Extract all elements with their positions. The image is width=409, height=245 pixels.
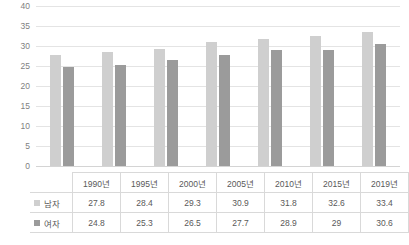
bar-female[interactable] — [219, 55, 230, 166]
y-axis-tick-label: 15 — [21, 102, 30, 111]
series-legend-label: 여자 — [44, 219, 60, 229]
bar-male[interactable] — [258, 39, 269, 166]
bar-female[interactable] — [63, 67, 74, 166]
bar-group — [140, 6, 192, 166]
y-axis-tick-label: 0 — [25, 162, 30, 171]
y-axis-tick-label: 20 — [21, 82, 30, 91]
female-swatch-icon — [34, 220, 40, 226]
table-column-header: 2000년 — [169, 173, 217, 193]
bars-layer — [36, 6, 400, 166]
series-legend-cell[interactable]: 남자 — [30, 193, 73, 213]
table-column-header: 2019년 — [361, 173, 409, 193]
bar-female[interactable] — [271, 50, 282, 166]
series-legend-label: 남자 — [44, 199, 60, 209]
y-axis-tick-label: 10 — [21, 122, 30, 131]
table-column-header: 2005년 — [217, 173, 265, 193]
gridlines-and-bars — [36, 6, 400, 166]
bar-female[interactable] — [167, 60, 178, 166]
table-data-cell: 30.9 — [217, 193, 265, 213]
male-swatch-icon — [34, 200, 40, 206]
bar-group — [192, 6, 244, 166]
table-data-cell: 29.3 — [169, 193, 217, 213]
data-table-body: 1990년1995년2000년2005년2010년2015년2019년남자27.… — [30, 173, 409, 233]
bar-male[interactable] — [154, 49, 165, 166]
bar-group — [88, 6, 140, 166]
data-table: 1990년1995년2000년2005년2010년2015년2019년남자27.… — [30, 172, 409, 233]
table-data-cell: 32.6 — [313, 193, 361, 213]
bar-male[interactable] — [362, 32, 373, 166]
series-legend-cell[interactable]: 여자 — [30, 213, 73, 233]
bar-male[interactable] — [310, 36, 321, 166]
table-data-cell: 33.4 — [361, 193, 409, 213]
y-axis-tick-label: 35 — [21, 22, 30, 31]
table-data-cell: 31.8 — [265, 193, 313, 213]
axis-baseline — [36, 166, 400, 167]
table-column-header: 1990년 — [73, 173, 121, 193]
bar-female[interactable] — [375, 44, 386, 166]
table-column-header: 2015년 — [313, 173, 361, 193]
table-row: 남자27.828.429.330.931.832.633.4 — [30, 193, 409, 213]
bar-female[interactable] — [115, 65, 126, 166]
table-data-cell: 27.7 — [217, 213, 265, 233]
table-header-row: 1990년1995년2000년2005년2010년2015년2019년 — [30, 173, 409, 193]
bar-male[interactable] — [102, 52, 113, 166]
y-axis: 4035302520151050 — [0, 6, 34, 166]
table-corner-cell — [30, 173, 73, 193]
table-data-cell: 26.5 — [169, 213, 217, 233]
plot-area: 4035302520151050 — [0, 6, 404, 172]
table-data-cell: 25.3 — [121, 213, 169, 233]
table-data-cell: 28.9 — [265, 213, 313, 233]
y-axis-tick-label: 40 — [21, 2, 30, 11]
bar-female[interactable] — [323, 50, 334, 166]
table-row: 여자24.825.326.527.728.92930.6 — [30, 213, 409, 233]
table-data-cell: 24.8 — [73, 213, 121, 233]
y-axis-tick-label: 5 — [25, 142, 30, 151]
y-axis-tick-label: 30 — [21, 42, 30, 51]
bar-male[interactable] — [50, 55, 61, 166]
bar-group — [244, 6, 296, 166]
bar-group — [296, 6, 348, 166]
bar-male[interactable] — [206, 42, 217, 166]
bar-group — [36, 6, 88, 166]
table-column-header: 1995년 — [121, 173, 169, 193]
table-data-cell: 27.8 — [73, 193, 121, 213]
table-data-cell: 28.4 — [121, 193, 169, 213]
table-column-header: 2010년 — [265, 173, 313, 193]
table-data-cell: 30.6 — [361, 213, 409, 233]
y-axis-tick-label: 25 — [21, 62, 30, 71]
bar-group — [348, 6, 400, 166]
table-data-cell: 29 — [313, 213, 361, 233]
